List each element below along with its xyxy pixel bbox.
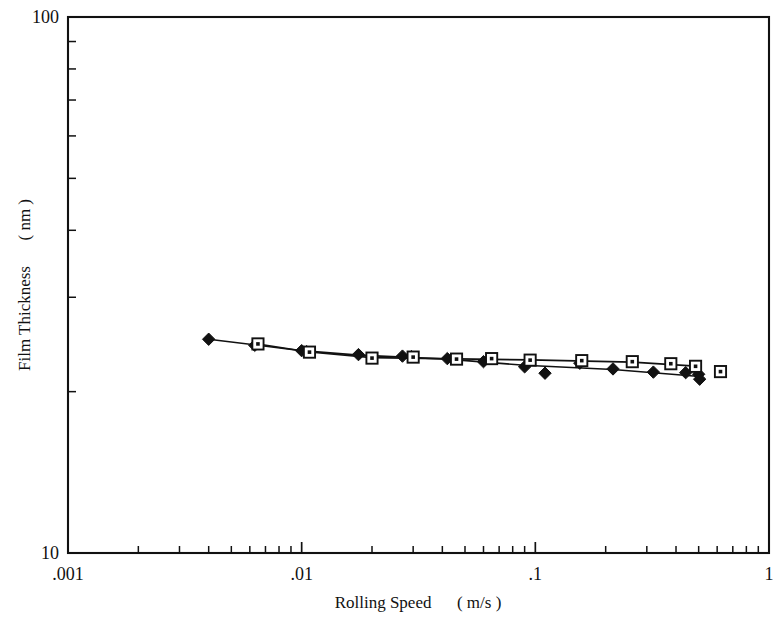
data-point-square-center	[490, 357, 494, 361]
y-tick-label: 100	[32, 7, 59, 27]
y-axis-title: Film Thickness ( nm )	[15, 199, 34, 371]
data-point-diamond	[607, 363, 619, 375]
y-tick-label: 10	[41, 543, 59, 563]
chart-figure: 10100 .001.01.11 Rolling Speed ( m/s ) F…	[0, 0, 780, 624]
data-point-square-center	[308, 350, 312, 354]
y-axis-minor-ticks	[68, 42, 76, 392]
x-tick-label: .001	[52, 564, 84, 584]
data-point-diamond	[202, 333, 214, 345]
x-axis-tick-labels: .001.01.11	[52, 564, 773, 584]
data-point-square-center	[256, 342, 260, 346]
data-point-square-center	[528, 358, 532, 362]
data-point-diamond	[352, 348, 364, 360]
data-point-square-center	[580, 359, 584, 363]
x-tick-label: .01	[290, 564, 313, 584]
data-point-diamond	[647, 366, 659, 378]
x-axis-major-ticks	[68, 542, 769, 553]
data-point-square-center	[455, 357, 459, 361]
log-log-scatter-plot: 10100 .001.01.11 Rolling Speed ( m/s ) F…	[0, 0, 780, 624]
x-tick-label: 1	[765, 564, 774, 584]
data-point-square-center	[411, 355, 415, 359]
y-axis-title-group: Film Thickness ( nm )	[15, 199, 34, 371]
data-point-square-center	[370, 356, 374, 360]
x-axis-title-group: Rolling Speed ( m/s )	[335, 593, 502, 612]
data-point-square-center	[669, 362, 673, 366]
x-tick-label: .1	[529, 564, 543, 584]
x-axis-title: Rolling Speed ( m/s )	[335, 593, 502, 612]
data-point-diamond	[539, 367, 551, 379]
y-axis-major-ticks	[68, 17, 79, 553]
y-axis-tick-labels: 10100	[32, 7, 59, 563]
data-point-square-center	[694, 365, 698, 369]
data-point-square-center	[719, 370, 723, 374]
plot-frame	[68, 17, 769, 553]
data-point-square-center	[630, 360, 634, 364]
